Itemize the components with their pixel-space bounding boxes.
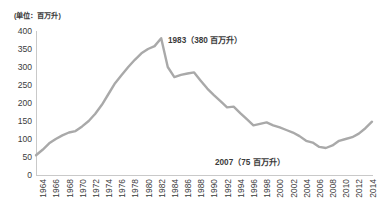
line-chart: (单位：百万升) 400350300250200150100500 196419… <box>0 0 387 224</box>
annotation-trough: 2007（75 百万升） <box>215 155 285 167</box>
annotation-peak: 1983（380 百万升） <box>168 33 242 45</box>
